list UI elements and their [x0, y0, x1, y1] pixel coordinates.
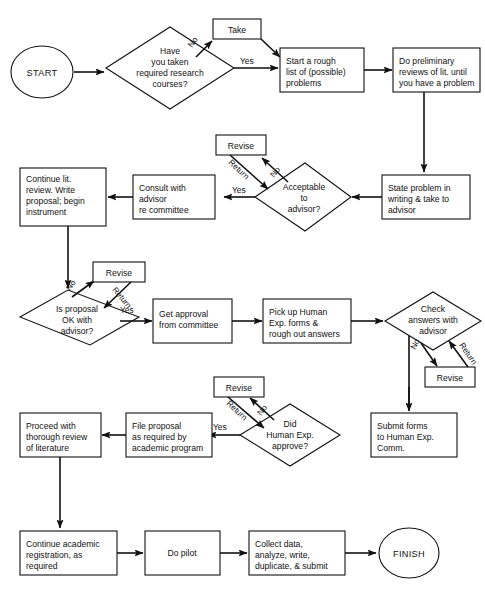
node-revise1: Revise — [216, 135, 266, 155]
node-prelim-line-2: reviews of lit. until — [399, 67, 467, 77]
node-pickup-forms-line-3: rough out answers — [269, 329, 340, 339]
node-did-approve-line-3: approve? — [272, 441, 308, 451]
node-proceed-review-line-3: of literature — [26, 443, 69, 453]
node-prelim-line-3: you have a problem — [399, 78, 474, 88]
node-continue-lit-line-2: review. Write — [26, 185, 75, 195]
node-did-approve: Did Human Exp. approve? — [240, 404, 340, 466]
node-submit-forms: Submit forms to Human Exp. Comm. — [371, 413, 457, 457]
node-revise4-label: Revise — [226, 383, 252, 393]
edge-label-yes3: Yes — [120, 305, 134, 315]
node-consult-line-3: re committee — [139, 205, 189, 215]
node-continue-reg-line-2: registration, as — [26, 550, 82, 560]
node-get-approval: Get approval from committee — [153, 299, 232, 343]
node-consult-line-2: advisor — [139, 194, 167, 204]
node-finish: FINISH — [379, 528, 439, 578]
edge-label-yes5: Yes — [213, 422, 227, 432]
node-revise1-label: Revise — [228, 141, 254, 151]
node-state-problem: State problem in writing & take to advis… — [382, 175, 470, 219]
node-submit-forms-line-2: to Human Exp. — [377, 432, 434, 442]
node-do-pilot-label: Do pilot — [167, 548, 197, 558]
node-collect-data: Collect data, analyze, write, duplicate,… — [249, 531, 345, 575]
node-rough-list-line-1: Start a rough — [286, 56, 336, 66]
node-get-approval-line-1: Get approval — [159, 309, 208, 319]
node-have-courses-line-1: Have — [160, 46, 180, 56]
node-start: START — [11, 46, 73, 98]
node-start-label: START — [27, 68, 58, 78]
node-check-answers-line-2: answers with — [408, 315, 458, 325]
node-have-courses-line-4: courses? — [153, 79, 188, 89]
node-prelim: Do preliminary reviews of lit. until you… — [393, 48, 480, 92]
node-proposal-ok-line-1: Is proposal — [56, 304, 98, 314]
node-continue-reg: Continue academic registration, as requi… — [20, 531, 117, 575]
node-proposal-ok-line-3: advisor? — [61, 326, 94, 336]
node-proposal-ok-line-2: OK with — [62, 315, 92, 325]
node-submit-forms-line-3: Comm. — [377, 443, 405, 453]
node-rough-list-line-3: problems — [286, 78, 321, 88]
node-state-problem-line-1: State problem in — [388, 183, 451, 193]
node-collect-data-line-1: Collect data, — [255, 539, 303, 549]
node-take: Take — [213, 19, 261, 39]
edge-label-no2: No — [268, 165, 282, 179]
node-continue-reg-line-1: Continue academic — [26, 539, 100, 549]
node-pickup-forms-line-1: Pick up Human — [269, 307, 327, 317]
node-acceptable-line-3: advisor? — [288, 204, 321, 214]
edge-take-to-rough-list — [261, 39, 280, 57]
edge-label-no3: No — [64, 278, 78, 292]
node-continue-reg-line-3: required — [26, 561, 58, 571]
node-did-approve-line-1: Did — [284, 419, 297, 429]
node-have-courses-line-2: you taken — [151, 57, 188, 67]
node-file-proposal-line-1: File proposal — [132, 421, 181, 431]
node-rough-list: Start a rough list of (possible) problem… — [280, 48, 364, 92]
edge-label-yes2: Yes — [232, 185, 246, 195]
node-continue-lit-line-3: proposal; begin — [26, 196, 85, 206]
flowchart-canvas: START Have you taken required research c… — [0, 0, 485, 599]
edge-label-return4: Return — [457, 341, 478, 367]
node-prelim-line-1: Do preliminary — [399, 56, 455, 66]
node-check-answers: Check answers with advisor — [385, 292, 481, 350]
node-revise3-label: Revise — [437, 373, 463, 383]
node-do-pilot: Do pilot — [145, 531, 220, 575]
node-collect-data-line-3: duplicate, & submit — [255, 561, 328, 571]
node-acceptable-line-2: to — [300, 193, 307, 203]
edge-label-yes1: Yes — [240, 56, 254, 66]
edge-label-return5: Return — [225, 399, 249, 423]
node-file-proposal: File proposal as required by academic pr… — [126, 413, 212, 457]
node-have-courses-line-3: required research — [136, 68, 204, 78]
node-state-problem-line-3: advisor — [388, 205, 416, 215]
node-take-label: Take — [228, 25, 246, 35]
node-continue-lit-line-1: Continue lit. — [26, 174, 71, 184]
node-proceed-review-line-2: thorough review — [26, 432, 88, 442]
node-continue-lit: Continue lit. review. Write proposal; be… — [20, 168, 106, 226]
node-acceptable-line-1: Acceptable — [283, 182, 326, 192]
node-submit-forms-line-1: Submit forms — [377, 421, 428, 431]
node-proceed-review: Proceed with thorough review of literatu… — [20, 413, 101, 457]
node-revise2-label: Revise — [106, 268, 132, 278]
node-proceed-review-line-1: Proceed with — [26, 421, 76, 431]
node-state-problem-line-2: writing & take to — [387, 194, 449, 204]
node-revise3: Revise — [425, 367, 475, 387]
flowchart-svg: START Have you taken required research c… — [0, 0, 485, 599]
node-check-answers-line-1: Check — [421, 304, 446, 314]
node-rough-list-line-2: list of (possible) — [286, 67, 346, 77]
node-collect-data-line-2: analyze, write, — [255, 550, 310, 560]
node-did-approve-line-2: Human Exp. — [266, 430, 313, 440]
node-file-proposal-line-3: academic program — [132, 443, 203, 453]
node-consult: Consult with advisor re committee — [133, 175, 215, 219]
node-get-approval-line-2: from committee — [159, 320, 218, 330]
node-continue-lit-line-4: instrument — [26, 207, 67, 217]
node-revise4: Revise — [214, 377, 264, 397]
node-finish-label: FINISH — [393, 549, 425, 559]
node-revise2: Revise — [93, 262, 145, 282]
node-check-answers-line-3: advisor — [419, 326, 447, 336]
node-consult-line-1: Consult with — [139, 183, 186, 193]
node-file-proposal-line-2: as required by — [132, 432, 187, 442]
node-pickup-forms: Pick up Human Exp. forms & rough out ans… — [263, 299, 351, 343]
node-pickup-forms-line-2: Exp. forms & — [269, 318, 318, 328]
